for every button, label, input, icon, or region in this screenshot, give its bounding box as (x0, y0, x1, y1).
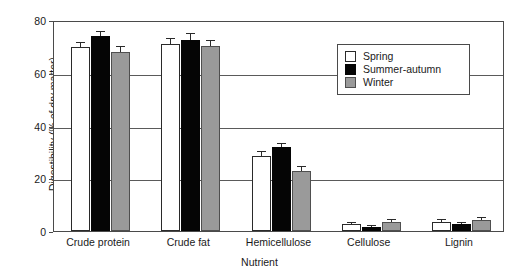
error-bar-cap (387, 219, 396, 220)
legend-item: Winter (338, 76, 469, 89)
error-bar (100, 31, 101, 35)
bar (181, 40, 200, 231)
x-axis-tick-label: Cellulose (324, 236, 414, 248)
error-bar (441, 219, 442, 222)
error-bar-cap (257, 151, 266, 152)
error-bar-cap (186, 33, 195, 34)
error-bar-cap (297, 166, 306, 167)
bar (252, 156, 271, 231)
bar (362, 227, 381, 231)
error-bar-cap (206, 40, 215, 41)
error-bar-cap (347, 222, 356, 223)
bar (292, 171, 311, 231)
bar (342, 224, 361, 231)
bar (432, 222, 451, 231)
legend-item-label: Winter (363, 77, 393, 88)
bar (382, 222, 401, 231)
x-axis-title: Nutrient (0, 256, 519, 268)
y-axis-tick-label: 60 (6, 74, 46, 75)
error-bar (301, 166, 302, 171)
error-bar (461, 222, 462, 225)
bar (91, 36, 110, 231)
error-bar (481, 217, 482, 220)
bar-group (71, 22, 131, 231)
y-axis-tick-label: 20 (6, 179, 46, 180)
error-bar-cap (437, 219, 446, 220)
bar-chart: Digestibility (% of dry matter) 02040608… (0, 0, 519, 280)
error-bar (391, 219, 392, 222)
legend-item-label: Spring (363, 51, 393, 62)
error-bar-cap (166, 38, 175, 39)
gray-square-swatch-icon (345, 77, 356, 88)
bar (161, 44, 180, 231)
error-bar (80, 42, 81, 47)
y-axis-tick-mark (49, 232, 53, 233)
bar-group (252, 22, 312, 231)
y-axis-tick-label: 80 (6, 21, 46, 22)
error-bar (371, 225, 372, 227)
bar (452, 224, 471, 231)
legend: Spring Summer-autumn Winter (337, 44, 470, 95)
x-axis-tick-label: Crude protein (53, 236, 143, 248)
x-axis-tick-label: Hemicellulose (233, 236, 323, 248)
error-bar (120, 46, 121, 52)
error-bar-cap (96, 31, 105, 32)
legend-item: Spring (338, 50, 469, 63)
y-axis-tick-label: 0 (6, 232, 46, 233)
error-bar (281, 143, 282, 147)
bar-group (161, 22, 221, 231)
bar (472, 220, 491, 231)
bar (71, 47, 90, 231)
y-axis-tick-label: 40 (6, 127, 46, 128)
error-bar-cap (367, 225, 376, 226)
error-bar (261, 151, 262, 156)
error-bar (210, 40, 211, 47)
error-bar-cap (76, 42, 85, 43)
legend-item-label: Summer-autumn (363, 64, 441, 75)
error-bar-cap (477, 217, 486, 218)
error-bar (351, 222, 352, 225)
legend-item: Summer-autumn (338, 63, 469, 76)
error-bar-cap (457, 222, 466, 223)
bar (111, 52, 130, 231)
bar (201, 46, 220, 231)
bar (272, 147, 291, 231)
x-axis-tick-label: Crude fat (143, 236, 233, 248)
x-axis-tick-label: Lignin (414, 236, 504, 248)
error-bar (170, 38, 171, 44)
error-bar-cap (277, 143, 286, 144)
white-square-swatch-icon (345, 51, 356, 62)
error-bar (190, 33, 191, 40)
error-bar-cap (116, 46, 125, 47)
black-square-swatch-icon (345, 64, 356, 75)
